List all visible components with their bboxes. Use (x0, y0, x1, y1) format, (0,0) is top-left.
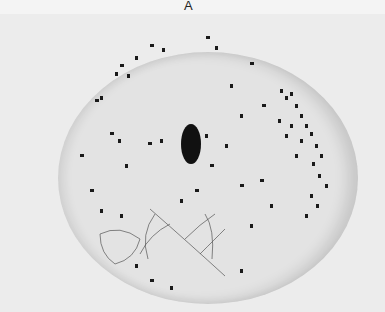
panel-label: A (184, 0, 193, 13)
leaf-skeleton (100, 209, 225, 276)
insects-and-leaf (0, 14, 385, 312)
photograph (0, 14, 385, 312)
